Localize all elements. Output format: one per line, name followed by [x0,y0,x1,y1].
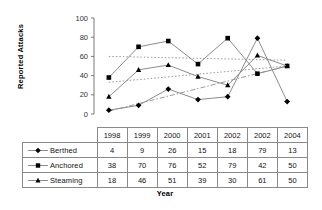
table-cell: 70 [127,158,157,173]
table-row: Anchored38707652794250 [23,158,308,173]
y-axis-tick-label: 80 [80,33,88,42]
data-point-anchored-2000 [166,39,171,44]
data-point-anchored-1999 [136,45,141,50]
y-axis-tick-label: 0 [84,110,88,119]
data-point-steaming-2000 [166,62,171,67]
table-column-header: 2004 [277,128,307,143]
table-cell: 18 [217,143,247,158]
plot-area: 020406080100 [60,12,308,128]
table-cell: 50 [277,173,307,188]
legend-label: Anchored [50,159,83,172]
legend-marker-glyph [35,147,41,153]
table-cell: 30 [217,173,247,188]
table-cell: 13 [277,143,307,158]
table-cell: 18 [97,173,127,188]
legend-item-anchored: Anchored [23,158,98,173]
data-point-berthed-2000 [165,86,171,92]
table-cell: 4 [97,143,127,158]
legend-item-steaming: Steaming [23,173,98,188]
table-cell: 52 [187,158,217,173]
data-point-anchored-1998 [107,75,112,80]
table-cell: 46 [127,173,157,188]
table-cell: 42 [247,158,277,173]
table-column-header: 1998 [97,128,127,143]
table-column-header: 2002 [217,128,247,143]
data-point-anchored-2002 [225,36,230,41]
table-column-header: 1999 [127,128,157,143]
y-axis-tick-label: 60 [80,52,88,61]
chart-figure: Reported Attacks 020406080100 1998199920… [0,0,322,210]
table-header-row: 1998199920002001200220022004 [23,128,308,143]
y-axis-title: Reported Attacks [16,7,25,107]
data-table: 1998199920002001200220022004Berthed49261… [22,127,308,188]
table-column-header: 2001 [187,128,217,143]
table-cell: 79 [217,158,247,173]
legend-label: Steaming [50,174,83,187]
table-cell: 15 [187,143,217,158]
data-point-anchored-2001 [196,62,201,67]
data-point-berthed-2004 [284,99,290,105]
data-point-berthed-2002 [225,94,231,100]
data-point-berthed-2002 [255,35,261,41]
data-point-anchored-2002 [255,71,260,76]
table-cell: 79 [247,143,277,158]
legend-label: Berthed [50,144,77,157]
table-column-header: 2002 [247,128,277,143]
legend-marker-glyph [36,163,40,167]
table-cell: 61 [247,173,277,188]
table-cell: 51 [157,173,187,188]
table-cell: 39 [187,173,217,188]
table-row: Berthed492615187913 [23,143,308,158]
y-axis-tick-label: 40 [80,71,88,80]
data-point-berthed-2001 [195,97,201,103]
table-cell: 76 [157,158,187,173]
legend-marker-triangle-icon [28,177,48,184]
table-cell: 50 [277,158,307,173]
y-axis-tick-label: 100 [75,14,88,23]
legend-marker-square-icon [28,162,48,169]
data-point-berthed-1998 [106,107,112,113]
table-cell: 26 [157,143,187,158]
table-corner-cell [23,128,98,143]
x-axis-title: Year [22,189,308,198]
y-axis-tick-label: 20 [80,90,88,99]
table-cell: 9 [127,143,157,158]
table-cell: 38 [97,158,127,173]
legend-item-berthed: Berthed [23,143,98,158]
table-column-header: 2000 [157,128,187,143]
data-point-steaming-2002 [255,53,260,58]
line-chart-svg: 020406080100 [60,12,308,128]
table-row: Steaming18465139306150 [23,173,308,188]
legend-marker-diamond-icon [28,147,48,154]
